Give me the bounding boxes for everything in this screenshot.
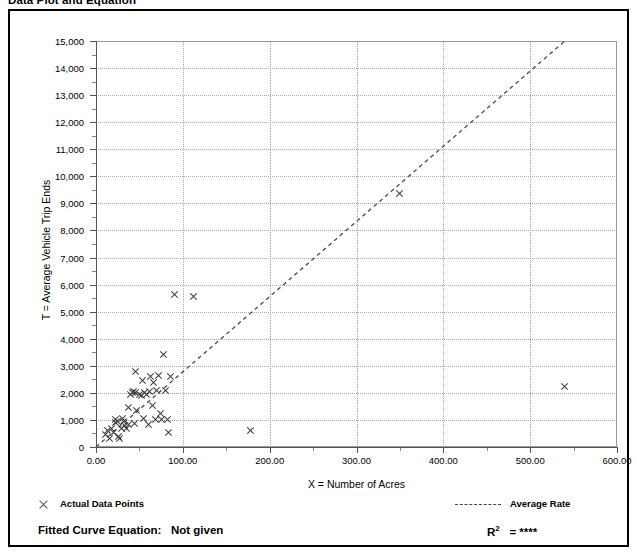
y-axis-tick-label: 2,000: [60, 387, 84, 398]
x-axis-tick-label: 200.00: [255, 455, 284, 466]
x-axis-title: X = Number of Acres: [96, 478, 617, 490]
x-axis-tick: [617, 447, 618, 453]
r-squared-value: R2 = ****: [487, 524, 537, 538]
fitted-curve-equation-value: Not given: [171, 524, 223, 536]
x-axis-line: [96, 447, 617, 448]
y-axis-title: T = Average Vehicle Trip Ends: [40, 100, 52, 400]
y-axis-tick-label: 12,000: [55, 117, 84, 128]
scatter-plot-chart: 01,0002,0003,0004,0005,0006,0007,0008,00…: [0, 0, 637, 553]
y-axis-tick-label: 10,000: [55, 171, 84, 182]
dashed-line-icon: [455, 504, 501, 505]
y-axis-line: [96, 41, 97, 448]
r-squared-result: = ****: [509, 526, 537, 538]
x-axis-tick-label: 0.00: [87, 455, 106, 466]
fitted-curve-equation: Fitted Curve Equation: Not given: [38, 524, 223, 536]
y-axis-tick-label: 4,000: [60, 333, 84, 344]
y-axis-tick-label: 8,000: [60, 225, 84, 236]
x-axis-tick-label: 500.00: [516, 455, 545, 466]
x-axis-tick-label: 400.00: [429, 455, 458, 466]
fitted-curve-equation-prefix: Fitted Curve Equation:: [38, 524, 161, 536]
y-axis-tick-label: 9,000: [60, 198, 84, 209]
x-axis-tick-label: 100.00: [168, 455, 197, 466]
x-axis-tick-label: 600.00: [602, 455, 631, 466]
r-squared-exponent: 2: [495, 524, 499, 533]
x-marker-icon: [38, 499, 49, 510]
y-axis-tick-label: 13,000: [55, 90, 84, 101]
y-axis-tick-label: 14,000: [55, 63, 84, 74]
legend-actual-data-points-label: Actual Data Points: [60, 498, 144, 509]
y-axis-tick-label: 7,000: [60, 252, 84, 263]
y-axis-tick-label: 3,000: [60, 360, 84, 371]
y-axis-tick-label: 11,000: [56, 144, 84, 155]
equation-row: Fitted Curve Equation: Not given R2 = **…: [0, 524, 637, 546]
x-axis-tick-label: 300.00: [342, 455, 371, 466]
y-axis-tick-label: 1,000: [60, 414, 84, 425]
y-axis-tick-label: 5,000: [60, 306, 84, 317]
plot-area-border: [96, 41, 617, 447]
chart-legend: Actual Data Points Average Rate: [0, 495, 637, 517]
y-axis-tick-label: 6,000: [60, 279, 84, 290]
y-axis-tick-label: 0: [79, 442, 84, 453]
y-axis-tick-label: 15,000: [55, 36, 84, 47]
legend-average-rate-label: Average Rate: [510, 498, 570, 509]
